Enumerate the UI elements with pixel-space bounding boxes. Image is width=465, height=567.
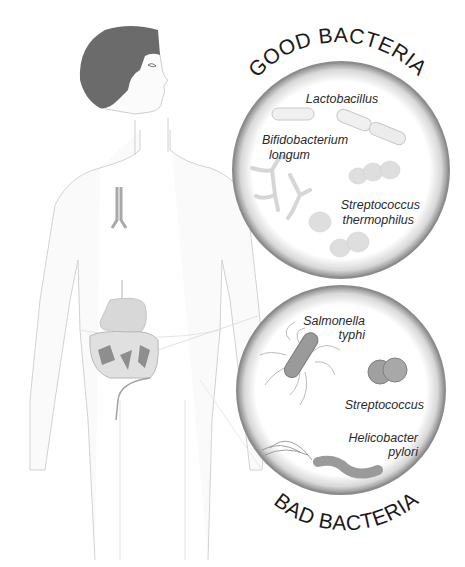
intestines [90,332,158,421]
label-bifidobacterium: Bifidobacterium [262,133,348,147]
gut-bacteria-diagram: GOOD BACTERIA Lactobacillus Bifidobacter… [0,0,465,567]
label-lactobacillus: Lactobacillus [306,92,378,106]
label-streptococcus: Streptococcus [345,398,424,412]
label-streptococcus-thermophilus-1: Streptococcus [341,198,420,212]
stomach [100,298,146,336]
bad-bacteria-panel: Salmonella typhi Streptococcus Helicobac… [237,286,445,534]
label-salmonella: Salmonella [303,314,365,328]
trachea [112,187,126,228]
good-bacteria-panel: GOOD BACTERIA Lactobacillus Bifidobacter… [233,23,449,278]
label-typhi: typhi [339,328,367,342]
label-longum: longum [269,148,310,162]
label-helicobacter: Helicobacter [349,431,419,445]
label-streptococcus-thermophilus-2: thermophilus [342,213,414,227]
human-figure [30,26,268,560]
label-pylori: pylori [387,445,419,459]
